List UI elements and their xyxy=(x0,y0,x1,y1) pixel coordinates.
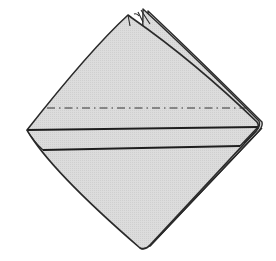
folded-band xyxy=(27,127,258,150)
napkin-folding-diagram: Folded napkin diagram xyxy=(0,0,276,261)
napkin-illustration xyxy=(0,0,276,261)
